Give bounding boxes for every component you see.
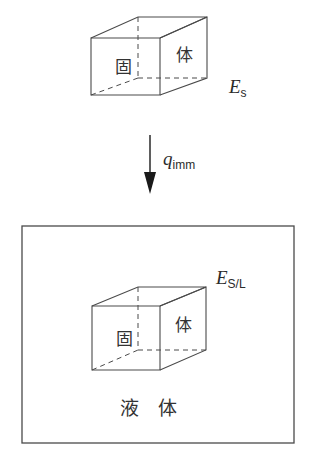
bottom-cube-solid-character: 固: [116, 329, 133, 349]
immersed-solid-cube: 固 体: [92, 287, 206, 370]
bottom-energy-subscript: S/L: [228, 277, 246, 291]
bottom-cube-hidden-diagonal-edge: [92, 350, 138, 370]
top-solid-cube: 固 体: [91, 17, 207, 95]
top-energy-subscript: s: [241, 86, 247, 100]
top-cube-top-face: [91, 17, 207, 38]
arrow-label: qimm: [163, 148, 195, 172]
top-cube-body-character: 体: [176, 45, 193, 65]
top-cube-hidden-diagonal-edge: [91, 78, 138, 95]
bottom-cube-body-character: 体: [175, 315, 192, 335]
bottom-energy-label: ES/L: [215, 267, 246, 291]
svg-text:Es: Es: [228, 76, 247, 100]
top-energy-symbol: E: [228, 76, 241, 97]
liquid-container: ES/L 固 体 液 体: [22, 226, 294, 443]
immersion-energy-diagram: 固 体 Es qimm ES/L 固 体: [0, 0, 315, 464]
top-energy-label: Es: [228, 76, 247, 100]
arrow-subscript: imm: [173, 158, 196, 172]
arrow-head-icon: [144, 172, 156, 194]
bottom-energy-symbol: E: [215, 267, 228, 288]
arrow-symbol: q: [163, 148, 173, 169]
liquid-label: 液 体: [120, 397, 177, 419]
immersion-arrow: qimm: [144, 135, 195, 194]
top-cube-solid-character: 固: [115, 57, 132, 77]
bottom-cube-top-face: [92, 287, 206, 306]
